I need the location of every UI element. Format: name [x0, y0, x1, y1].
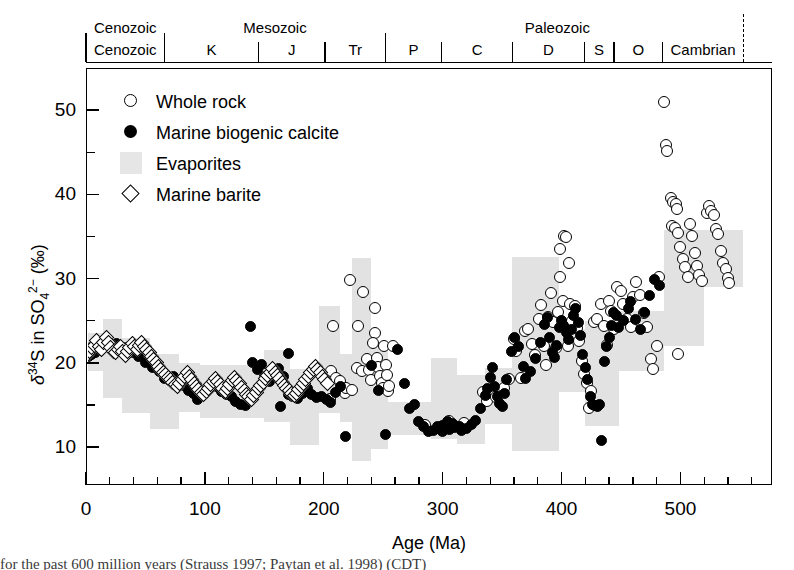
figure-caption-cropped: for the past 600 million years (Strauss …	[0, 556, 794, 570]
x-tick-minor	[157, 477, 158, 485]
period-boundary-tick	[613, 42, 614, 62]
legend-label: Whole rock	[156, 92, 246, 112]
data-point-biogenic-calcite	[625, 296, 636, 307]
x-tick-minor	[608, 477, 609, 485]
x-tick-major	[561, 472, 562, 485]
x-tick-minor	[727, 477, 728, 485]
y-tick-major	[86, 109, 99, 110]
period-boundary-tick	[385, 42, 386, 62]
y-tick-minor	[86, 320, 95, 321]
x-tick-minor	[656, 477, 657, 485]
data-point-biogenic-calcite	[570, 303, 581, 314]
period-boundary-tick	[164, 42, 165, 62]
x-tick-label: 100	[165, 499, 245, 518]
data-point-biogenic-calcite	[530, 353, 541, 364]
data-point-whole-rock	[615, 285, 627, 297]
x-tick-major	[204, 472, 205, 485]
data-point-biogenic-calcite	[563, 334, 574, 345]
data-point-biogenic-calcite	[392, 344, 403, 355]
data-point-whole-rock	[723, 277, 735, 289]
x-tick-minor	[513, 477, 514, 485]
figure-root: CenozoicMesozoicPaleozoicCenozoicKJTrPCD…	[0, 0, 794, 570]
data-point-whole-rock	[661, 145, 673, 157]
y-axis-title: δ34S in SO42− (‰)	[26, 244, 52, 385]
legend-item: Marine barite	[116, 183, 446, 209]
period-label-cambrian: Cambrian	[633, 42, 774, 57]
data-point-whole-rock	[674, 241, 686, 253]
data-point-whole-rock	[369, 302, 381, 314]
data-point-biogenic-calcite	[635, 324, 646, 335]
x-tick-label: 400	[522, 499, 602, 518]
data-point-whole-rock	[545, 287, 557, 299]
data-point-biogenic-calcite	[380, 429, 391, 440]
x-tick-label: 500	[640, 499, 720, 518]
legend-filled-circle-icon	[124, 125, 137, 138]
legend-label: Marine biogenic calcite	[156, 123, 339, 143]
data-point-whole-rock	[658, 96, 670, 108]
data-point-whole-rock	[696, 275, 708, 287]
x-tick-major	[85, 472, 86, 485]
era-label-paleozoic: Paleozoic	[326, 20, 790, 35]
cambrian-base-dashed-boundary	[743, 14, 744, 62]
x-tick-minor	[180, 477, 181, 485]
period-boundary-tick	[512, 42, 513, 62]
y-tick-major	[86, 278, 99, 279]
y-tick-label: 50	[34, 100, 76, 119]
data-point-biogenic-calcite	[525, 366, 536, 377]
y-tick-minor	[86, 236, 95, 237]
data-point-whole-rock	[554, 243, 566, 255]
data-point-biogenic-calcite	[245, 321, 256, 332]
data-point-whole-rock	[671, 203, 683, 215]
data-point-whole-rock	[647, 363, 659, 375]
data-point-whole-rock	[367, 337, 379, 349]
x-tick-minor	[371, 477, 372, 485]
y-tick-major	[86, 446, 99, 447]
legend-item: Whole rock	[116, 90, 446, 116]
x-tick-minor	[109, 477, 110, 485]
data-point-biogenic-calcite	[594, 399, 605, 410]
data-point-whole-rock	[651, 340, 663, 352]
y-tick-major	[86, 194, 99, 195]
data-point-biogenic-calcite	[283, 348, 294, 359]
x-tick-minor	[537, 477, 538, 485]
data-point-biogenic-calcite	[596, 435, 607, 446]
data-point-whole-rock	[327, 320, 339, 332]
data-point-whole-rock	[682, 271, 694, 283]
data-point-biogenic-calcite	[399, 378, 410, 389]
data-point-biogenic-calcite	[599, 356, 610, 367]
data-point-biogenic-calcite	[654, 280, 665, 291]
x-tick-minor	[133, 477, 134, 485]
period-boundary-tick	[662, 42, 663, 62]
data-point-whole-rock	[715, 245, 727, 257]
x-tick-minor	[299, 477, 300, 485]
y-tick-label: 40	[34, 184, 76, 203]
data-point-whole-rock	[630, 276, 642, 288]
x-tick-minor	[347, 477, 348, 485]
timescale-left-cap	[85, 33, 86, 62]
period-boundary-tick	[258, 42, 259, 62]
y-tick-minor	[86, 404, 95, 405]
data-point-whole-rock	[357, 286, 369, 298]
data-point-biogenic-calcite	[513, 341, 524, 352]
x-tick-minor	[466, 477, 467, 485]
data-point-whole-rock	[563, 257, 575, 269]
data-point-biogenic-calcite	[335, 381, 346, 392]
data-point-biogenic-calcite	[499, 388, 510, 399]
data-point-biogenic-calcite	[475, 403, 486, 414]
x-tick-minor	[585, 477, 586, 485]
legend-open-circle-icon	[124, 94, 137, 107]
period-boundary-tick	[441, 42, 442, 62]
x-tick-minor	[751, 477, 752, 485]
x-tick-minor	[228, 477, 229, 485]
x-axis-title: Age (Ma)	[0, 533, 794, 554]
data-point-whole-rock	[684, 218, 696, 230]
data-point-whole-rock	[535, 299, 547, 311]
x-tick-minor	[704, 477, 705, 485]
legend-item: Evaporites	[116, 152, 446, 178]
data-point-whole-rock	[560, 231, 572, 243]
y-tick-major	[86, 362, 99, 363]
x-tick-minor	[252, 477, 253, 485]
x-tick-minor	[394, 477, 395, 485]
period-boundary-tick	[324, 42, 325, 62]
x-tick-minor	[632, 477, 633, 485]
